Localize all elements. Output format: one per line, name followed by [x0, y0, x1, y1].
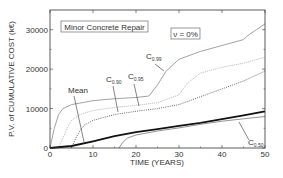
label-c050: C0.50	[239, 122, 264, 148]
series-line-mean	[50, 111, 265, 148]
svg-text:C0.90: C0.90	[106, 75, 122, 85]
y-tick-label: 10000	[26, 105, 49, 114]
label-c095: C0.95	[128, 72, 144, 106]
rate-label: ν = 0%	[173, 30, 198, 39]
chart: 010203040500100002000030000 TIME (YEARS)…	[0, 0, 283, 178]
x-tick-label: 40	[218, 150, 227, 159]
svg-text:Mean: Mean	[68, 86, 88, 95]
y-tick-label: 30000	[26, 26, 49, 35]
chart-title: Minor Concrete Repair	[64, 23, 145, 32]
x-tick-label: 0	[48, 150, 53, 159]
series-line-c095	[59, 57, 265, 148]
x-axis-title: TIME (YEARS)	[130, 158, 184, 167]
axis-ticks: 010203040500100002000030000	[26, 10, 270, 159]
label-c099: C0.99	[146, 52, 164, 71]
y-axis-title: P.V. of CUMULATIVE COST (k€)	[7, 21, 16, 137]
svg-text:C0.95: C0.95	[128, 72, 144, 82]
svg-text:C0.50: C0.50	[248, 138, 264, 148]
label-c090: C0.90	[106, 75, 122, 112]
y-tick-label: 20000	[26, 65, 49, 74]
x-tick-label: 10	[89, 150, 98, 159]
y-tick-label: 0	[44, 144, 49, 153]
x-tick-label: 50	[261, 150, 270, 159]
svg-text:C0.99: C0.99	[146, 52, 162, 62]
